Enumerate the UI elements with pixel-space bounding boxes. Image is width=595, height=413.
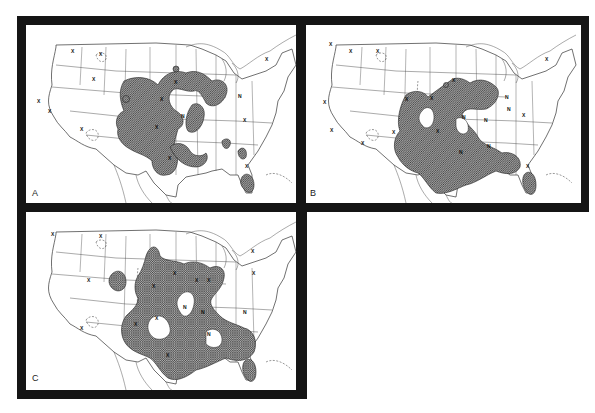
map-panel-a-area xyxy=(26,25,296,203)
map-panel-b: B xyxy=(297,16,589,212)
panel-label-b: B xyxy=(310,188,316,198)
panel-label-a: A xyxy=(32,188,38,198)
map-panel-c-area xyxy=(26,212,296,390)
map-panel-a: A xyxy=(17,16,307,212)
map-panel-b-area xyxy=(306,25,581,203)
panel-label-c: C xyxy=(32,373,39,383)
map-panel-c: C xyxy=(17,203,307,399)
